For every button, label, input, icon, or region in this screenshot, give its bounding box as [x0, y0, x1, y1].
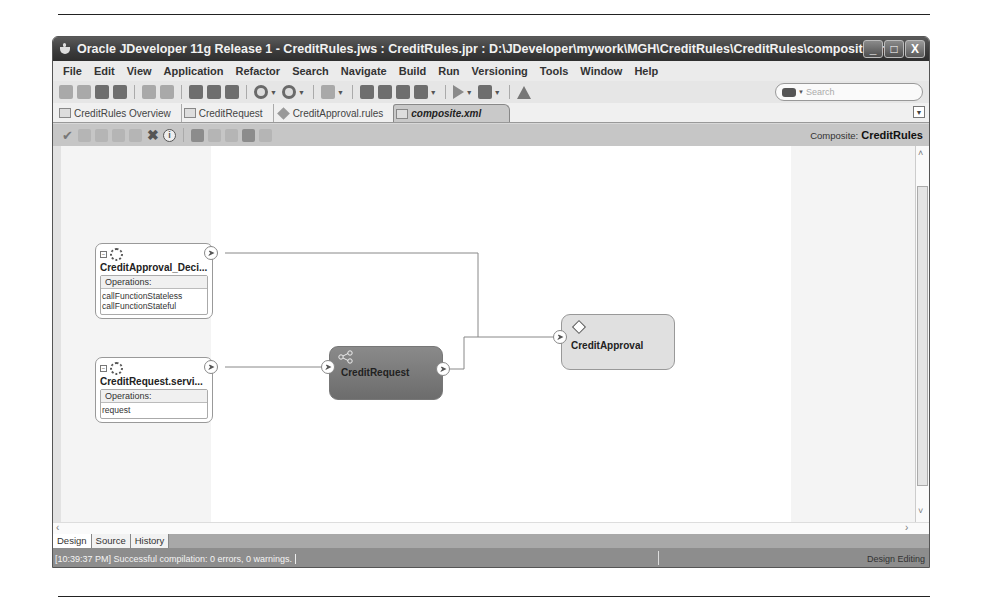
deploy-icon[interactable]: [321, 85, 335, 99]
service-creditapproval-decision[interactable]: − CreditApproval_Deci... Operations: cal…: [95, 243, 213, 319]
menu-refactor[interactable]: Refactor: [230, 65, 287, 77]
layout-icon[interactable]: [208, 129, 221, 142]
binoculars-icon[interactable]: [782, 88, 796, 97]
component-reference-port-icon[interactable]: [436, 362, 450, 376]
zoom-icon[interactable]: [191, 129, 204, 142]
operations-panel: Operations: request: [100, 389, 208, 419]
open-icon[interactable]: [77, 85, 91, 99]
component-service-port-icon[interactable]: [321, 360, 335, 374]
operation-item[interactable]: callFunctionStateless: [101, 291, 207, 301]
database-dropdown-icon[interactable]: ▼: [430, 89, 437, 96]
tab-creditapproval-rules[interactable]: CreditApproval.rules: [273, 104, 394, 122]
collapse-icon[interactable]: −: [100, 251, 107, 258]
close-button[interactable]: X: [905, 40, 925, 58]
service-port-icon[interactable]: [204, 246, 218, 260]
service-creditrequest[interactable]: − CreditRequest.servi... Operations: req…: [95, 357, 213, 423]
warning-icon[interactable]: [517, 86, 531, 99]
forward-icon[interactable]: [282, 85, 296, 99]
search-placeholder: Search: [806, 87, 835, 97]
menu-versioning[interactable]: Versioning: [466, 65, 534, 77]
run-icon[interactable]: [453, 85, 464, 99]
back-icon[interactable]: [254, 85, 268, 99]
minimize-button[interactable]: _: [863, 40, 883, 58]
run-dropdown-icon[interactable]: ▼: [466, 89, 473, 96]
tab-composite-xml[interactable]: composite.xml: [393, 104, 510, 122]
composite-label-text: Composite:: [810, 130, 858, 141]
component-creditrequest[interactable]: CreditRequest: [329, 346, 443, 400]
copy-icon[interactable]: [207, 85, 221, 99]
back-dropdown-icon[interactable]: ▼: [270, 89, 277, 96]
database-icon[interactable]: [414, 85, 428, 99]
service-port-icon[interactable]: [204, 360, 218, 374]
debug-icon[interactable]: [478, 85, 492, 99]
tab-history[interactable]: History: [131, 534, 170, 548]
validate-icon[interactable]: ✔: [61, 129, 74, 142]
antenna-icon[interactable]: [95, 129, 108, 142]
operation-item[interactable]: request: [101, 405, 207, 415]
toolbar-separator: [509, 85, 510, 99]
menu-file[interactable]: File: [57, 65, 88, 77]
undo-icon[interactable]: [259, 129, 272, 142]
deploy-dropdown-icon[interactable]: ▼: [337, 89, 344, 96]
scroll-right-icon[interactable]: ›: [905, 522, 908, 533]
wire-icon[interactable]: [78, 129, 91, 142]
menu-view[interactable]: View: [121, 65, 158, 77]
bpel-process-icon: [184, 108, 196, 118]
scroll-left-icon[interactable]: ‹: [56, 522, 59, 533]
java-cup-icon: [59, 43, 71, 55]
service-gear-icon: [110, 362, 123, 375]
forward-dropdown-icon[interactable]: ▼: [298, 89, 305, 96]
horizontal-scrollbar[interactable]: ‹ ›: [53, 522, 929, 534]
maximize-button[interactable]: □: [884, 40, 904, 58]
menu-search[interactable]: Search: [286, 65, 335, 77]
component-name: CreditRequest: [341, 367, 409, 378]
debug-dropdown-icon[interactable]: ▼: [494, 89, 501, 96]
operation-item[interactable]: callFunctionStateful: [101, 301, 207, 311]
scroll-thumb[interactable]: [917, 186, 928, 486]
save-all-icon[interactable]: [113, 85, 127, 99]
menu-application[interactable]: Application: [158, 65, 230, 77]
menu-tools[interactable]: Tools: [534, 65, 575, 77]
composite-icon: [396, 109, 408, 119]
refresh-icon[interactable]: [225, 129, 238, 142]
menu-help[interactable]: Help: [628, 65, 664, 77]
menu-window[interactable]: Window: [574, 65, 628, 77]
overview-icon: [59, 108, 71, 118]
menu-edit[interactable]: Edit: [88, 65, 121, 77]
cut-icon[interactable]: [189, 85, 203, 99]
menu-build[interactable]: Build: [393, 65, 433, 77]
operations-header: Operations:: [101, 390, 207, 403]
paste-icon[interactable]: [225, 85, 239, 99]
save-icon[interactable]: [95, 85, 109, 99]
scroll-up-icon[interactable]: ˄: [918, 148, 923, 158]
clean-icon[interactable]: [396, 85, 410, 99]
expand-icon[interactable]: [112, 129, 125, 142]
component-service-port-icon[interactable]: [553, 330, 567, 344]
undo-icon[interactable]: [142, 85, 156, 99]
menu-navigate[interactable]: Navigate: [335, 65, 393, 77]
search-input[interactable]: ▼ Search: [775, 83, 923, 101]
info-icon[interactable]: i: [163, 129, 176, 142]
scroll-down-icon[interactable]: ˅: [918, 506, 923, 516]
vertical-scrollbar[interactable]: ˄ ˅: [915, 146, 929, 522]
tab-creditrules-overview[interactable]: CreditRules Overview: [57, 104, 181, 122]
tab-source[interactable]: Source: [92, 534, 131, 548]
component-creditapproval[interactable]: CreditApproval: [561, 314, 675, 370]
search-dropdown-icon[interactable]: ▼: [798, 89, 804, 95]
top-rule: [58, 14, 930, 15]
rebuild-icon[interactable]: [378, 85, 392, 99]
composite-canvas[interactable]: − CreditApproval_Deci... Operations: cal…: [53, 146, 915, 522]
collapse-icon[interactable]: [129, 129, 142, 142]
tab-creditrequest[interactable]: CreditRequest: [181, 104, 273, 122]
delete-icon[interactable]: ✖: [146, 129, 159, 142]
tab-list-dropdown-icon[interactable]: ▼: [913, 106, 925, 118]
new-icon[interactable]: [59, 85, 73, 99]
toolbar-separator: [246, 85, 247, 99]
make-icon[interactable]: [360, 85, 374, 99]
deploy-icon[interactable]: [242, 129, 255, 142]
menu-run[interactable]: Run: [432, 65, 465, 77]
collapse-icon[interactable]: −: [100, 365, 107, 372]
redo-icon[interactable]: [160, 85, 174, 99]
tab-label: composite.xml: [411, 108, 481, 119]
tab-design[interactable]: Design: [53, 534, 92, 548]
